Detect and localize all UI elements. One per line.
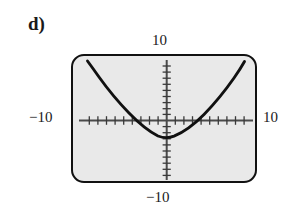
part-label: d) bbox=[28, 14, 45, 33]
x-axis-min-label: −10 bbox=[29, 110, 52, 125]
x-axis-max-label: 10 bbox=[263, 110, 278, 125]
graph-figure: d) bbox=[0, 0, 288, 219]
y-axis-max-label: 10 bbox=[152, 33, 167, 48]
y-axis-min-label: −10 bbox=[146, 190, 169, 205]
plot-area bbox=[73, 56, 259, 185]
calculator-graph-window bbox=[71, 54, 257, 183]
